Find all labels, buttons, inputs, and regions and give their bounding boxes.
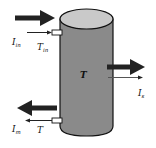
inlet-flow-label: Iin [11, 37, 21, 48]
inlet-temp-label: Tin [37, 42, 49, 53]
inlet-flow-arrow [27, 31, 52, 35]
inlet-heat-arrow [15, 10, 55, 26]
outlet-flow-arrow [25, 119, 52, 123]
inlet-port [52, 30, 62, 35]
side-flow-label: Is [137, 88, 145, 99]
outlet-flow-label: Im [11, 124, 21, 135]
outlet-heat-arrow [17, 100, 57, 116]
outlet-port [52, 118, 62, 123]
outlet-temp-label: T [37, 125, 44, 135]
tank-top [60, 9, 113, 29]
tank-diagram: Iin Tin T Is Im T [0, 0, 156, 148]
